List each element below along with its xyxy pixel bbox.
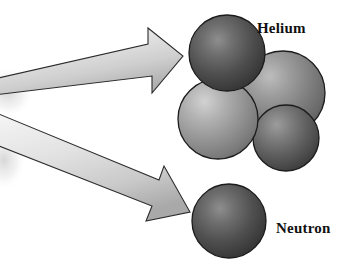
neutron-label: Neutron: [276, 220, 330, 237]
neutron-sphere: [192, 184, 266, 258]
helium-sphere-bottom-left: [178, 79, 258, 159]
neutron-particle: [192, 184, 266, 258]
helium-label: Helium: [257, 20, 306, 37]
helium-sphere-bottom-right: [253, 105, 319, 171]
helium-sphere-top-left: [189, 15, 265, 91]
nuclear-reaction-diagram: Helium Neutron: [0, 0, 345, 276]
